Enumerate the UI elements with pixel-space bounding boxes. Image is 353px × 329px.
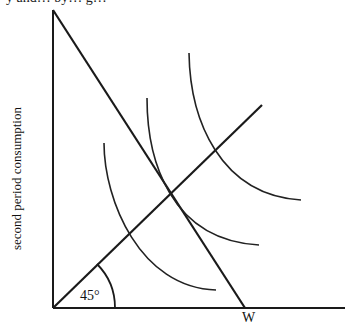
y-axis-label: second period consumption [9, 107, 24, 250]
indifference-curve-2 [147, 98, 259, 245]
angle-label: 45° [80, 288, 100, 303]
diagram: y and… by… g… second period consumption … [0, 0, 353, 329]
budget-intercept-label: W [242, 310, 256, 325]
ray-45-degree [53, 105, 262, 308]
cut-off-heading: y and… by… g… [6, 0, 107, 5]
angle-arc [97, 264, 115, 308]
indifference-curve-3 [189, 53, 301, 200]
budget-line [53, 10, 245, 308]
